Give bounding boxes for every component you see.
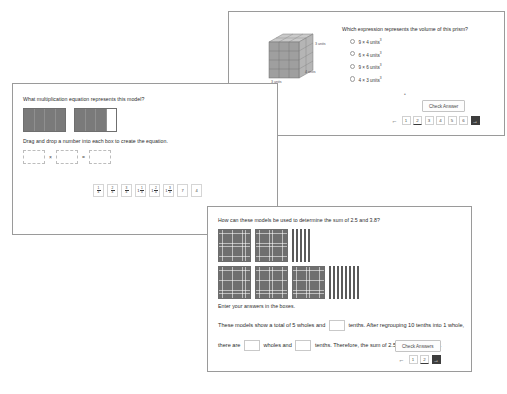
sentence-part-2: tenths. After regrouping 10 tenths into … xyxy=(348,322,446,328)
number-tile[interactable]: 34 xyxy=(121,184,132,197)
decimal-model-row-2 xyxy=(218,266,359,299)
volume-question-text: Which expression represents the volume o… xyxy=(342,26,492,32)
fraction-bar-1 xyxy=(23,108,66,132)
tenth-strip xyxy=(357,266,359,299)
check-answer-button[interactable]: Check Answer xyxy=(422,100,465,112)
bar-segment xyxy=(107,109,117,131)
drop-box-factor-1[interactable] xyxy=(23,150,45,164)
pagination-page-2[interactable]: 2 xyxy=(420,355,429,364)
number-tile[interactable]: 114 xyxy=(135,184,146,197)
tenth-strip xyxy=(353,266,355,299)
pagination-page-1[interactable]: 1 xyxy=(402,116,411,125)
tenths-strip-group xyxy=(329,266,359,299)
answer-blank-tenths-total[interactable] xyxy=(329,320,345,331)
pagination-prev-button[interactable]: ← xyxy=(397,355,406,364)
hundredths-grid xyxy=(255,266,288,299)
radio-icon-3[interactable] xyxy=(350,64,355,69)
number-tile[interactable]: 7 xyxy=(177,184,188,197)
answer-blank-tenths[interactable] xyxy=(295,340,311,351)
bar-segment xyxy=(35,109,46,131)
panel-decimal-sum-question[interactable]: How can these models be used to determin… xyxy=(207,206,472,372)
tenth-strip xyxy=(349,266,351,299)
rectangular-prism-figure: 3 units 4 units 3 units xyxy=(261,30,341,90)
check-answers-button[interactable]: Check Answers xyxy=(395,340,441,352)
number-tile-tray[interactable]: 14 24 34 114 124 134 7 4 xyxy=(93,184,202,197)
pagination-page-6[interactable]: 6 xyxy=(459,116,468,125)
option-label-3: 9 × 6 units3 xyxy=(358,63,381,70)
option-label-2: 6 × 4 units3 xyxy=(358,51,381,58)
pagination-volume[interactable]: ← 1 2 3 4 5 6 → xyxy=(390,116,480,125)
radio-icon-4[interactable] xyxy=(350,76,355,81)
enter-answers-instruction: Enter your answers in the boxes. xyxy=(218,303,295,310)
multiplication-question-text: What multiplication equation represents … xyxy=(23,96,263,103)
pagination-page-1[interactable]: 1 xyxy=(409,355,418,364)
hundredths-grid xyxy=(292,266,325,299)
prism-label-depth: 4 units xyxy=(305,70,316,74)
times-operator: × xyxy=(49,154,52,160)
equation-builder[interactable]: × = xyxy=(23,150,111,164)
tenth-strip xyxy=(345,266,347,299)
tenth-strip xyxy=(329,266,331,299)
radio-icon-1[interactable] xyxy=(350,39,355,44)
pagination-decimal-sum[interactable]: ← 1 2 → xyxy=(397,355,441,364)
pagination-page-4[interactable]: 4 xyxy=(436,116,445,125)
tenths-strip-group xyxy=(292,229,310,262)
tenth-strip xyxy=(308,229,310,262)
pagination-prev-button[interactable]: ← xyxy=(390,116,399,125)
hundredths-grid xyxy=(218,266,251,299)
sentence-part-1: These models show a total of 5 wholes an… xyxy=(218,322,325,328)
tenth-strip xyxy=(292,229,294,262)
fraction-bar-model xyxy=(23,108,117,132)
equals-operator: = xyxy=(82,154,85,160)
drag-drop-instruction: Drag and drop a number into each box to … xyxy=(23,138,263,145)
option-row-3[interactable]: 9 × 6 units3 xyxy=(350,63,492,70)
option-label-4: 4 × 3 units3 xyxy=(358,76,381,83)
bar-segment xyxy=(96,109,107,131)
number-tile[interactable]: 24 xyxy=(107,184,118,197)
hundredths-grid xyxy=(255,229,288,262)
decimal-sum-question-text: How can these models be used to determin… xyxy=(218,217,463,224)
number-tile[interactable]: 14 xyxy=(93,184,104,197)
pagination-next-button[interactable]: → xyxy=(471,116,480,125)
drop-box-product[interactable] xyxy=(89,150,111,164)
sentence-part-4: wholes and xyxy=(264,342,292,348)
hundredths-grid xyxy=(218,229,251,262)
pagination-page-2[interactable]: 2 xyxy=(413,116,422,125)
tenth-strip xyxy=(296,229,298,262)
number-tile[interactable]: 124 xyxy=(149,184,160,197)
bar-segment xyxy=(75,109,86,131)
radio-icon-2[interactable] xyxy=(350,51,355,56)
pagination-page-3[interactable]: 3 xyxy=(425,116,434,125)
pagination-next-button[interactable]: → xyxy=(432,355,441,364)
tenth-strip xyxy=(304,229,306,262)
prism-label-height: 3 units xyxy=(315,42,326,46)
option-row-2[interactable]: 6 × 4 units3 xyxy=(350,51,492,58)
cursor-pointer: • xyxy=(404,91,406,97)
option-row-1[interactable]: 9 × 4 units3 xyxy=(350,38,492,45)
drop-box-factor-2[interactable] xyxy=(56,150,78,164)
pagination-page-5[interactable]: 5 xyxy=(448,116,457,125)
option-label-1: 9 × 4 units3 xyxy=(358,38,381,45)
decimal-model-row-1 xyxy=(218,229,310,262)
bar-segment xyxy=(24,109,35,131)
volume-options-group: Which expression represents the volume o… xyxy=(342,26,492,88)
tenth-strip xyxy=(341,266,343,299)
number-tile[interactable]: 4 xyxy=(191,184,202,197)
option-row-4[interactable]: 4 × 3 units3 xyxy=(350,76,492,83)
bar-segment xyxy=(45,109,56,131)
tenth-strip xyxy=(333,266,335,299)
tenth-strip xyxy=(337,266,339,299)
bar-segment xyxy=(86,109,97,131)
tenth-strip xyxy=(300,229,302,262)
answer-blank-wholes[interactable] xyxy=(244,340,260,351)
number-tile[interactable]: 134 xyxy=(163,184,174,197)
bar-segment xyxy=(56,109,66,131)
fraction-bar-2 xyxy=(74,108,117,132)
